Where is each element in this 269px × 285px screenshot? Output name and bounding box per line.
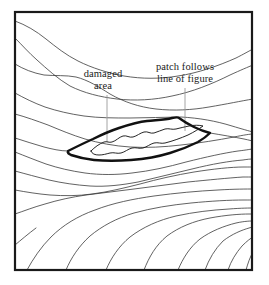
patch-follows-label: patch follows line of figure <box>146 61 224 84</box>
figure-root: damaged area patch follows line of figur… <box>0 0 269 285</box>
damaged-area-label-line2: area <box>72 80 134 92</box>
damaged-area-label: damaged area <box>72 68 134 91</box>
page-background <box>0 0 269 285</box>
patch-follows-label-line1: patch follows <box>146 61 224 73</box>
patch-follows-label-line2: line of figure <box>146 73 224 85</box>
figure-canvas <box>0 0 269 285</box>
damaged-area-label-line1: damaged <box>72 68 134 80</box>
